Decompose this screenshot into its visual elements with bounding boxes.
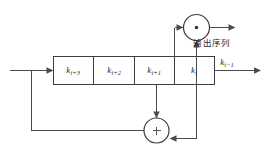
lfsr-diagram: ki+3 ki+2 ki+1 ki ki−1 输出序列 [0,0,272,157]
cell-label-ki1: ki+1 [147,66,160,75]
diagram-canvas [0,0,272,157]
and-left-input-arrowhead [177,24,184,30]
cell-label-ki: ki [191,66,197,75]
cell-sub-ki1: i+1 [151,69,160,76]
multiply-gate-dot-icon [195,26,198,29]
cell-sub-ki2: i+2 [111,69,120,76]
cell-sub-ki3: i+3 [70,69,79,76]
register-output-arrowhead [254,67,261,73]
output-bit-label: ki−1 [220,58,233,67]
sequence-output-arrowhead [229,24,236,30]
xor-right-input-arrowhead [170,135,177,141]
cell-label-ki2: ki+2 [107,66,120,75]
cell-sub-ki: i [195,69,197,76]
output-bit-subscript: i−1 [224,61,233,68]
input-arrowhead [47,67,54,73]
cell-label-ki3: ki+3 [66,66,79,75]
output-sequence-label: 输出序列 [193,39,230,48]
